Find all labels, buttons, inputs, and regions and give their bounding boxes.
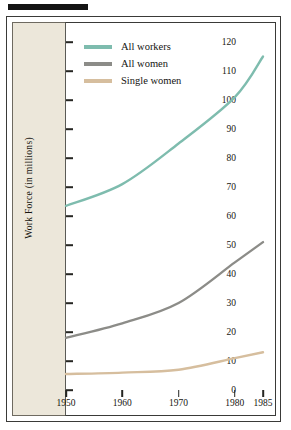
y-axis-title: Work Force (in millions): [24, 68, 34, 308]
y-axis-tick-mark: [66, 389, 73, 391]
legend-item: Single women: [84, 72, 181, 89]
y-axis-tick-label: 50: [227, 240, 237, 250]
legend-swatch-icon: [84, 79, 112, 83]
x-axis-tick-mark: [178, 390, 180, 397]
x-axis-tick-mark: [121, 390, 123, 397]
x-axis-tick-label: 1960: [113, 398, 132, 408]
y-axis-tick-mark: [66, 360, 73, 362]
legend-swatch-icon: [84, 45, 112, 49]
y-axis-tick-label: 60: [227, 211, 237, 221]
y-axis-tick-label: 120: [222, 37, 236, 47]
x-axis-tick-mark: [65, 390, 67, 397]
chart-legend: All workersAll womenSingle women: [84, 38, 181, 89]
y-axis-tick-mark: [66, 331, 73, 333]
y-axis-tick-label: 40: [227, 269, 237, 279]
y-axis-tick-mark: [66, 41, 73, 43]
y-axis-tick-mark: [66, 215, 73, 217]
legend-label: Single women: [121, 75, 181, 86]
legend-item: All workers: [84, 38, 181, 55]
y-axis-tick-mark: [66, 302, 73, 304]
legend-label: All women: [121, 58, 168, 69]
x-axis-tick-label: 1980: [225, 398, 244, 408]
y-axis-tick-label: 80: [227, 153, 237, 163]
x-axis-tick-label: 1950: [57, 398, 76, 408]
y-axis-tick-mark: [66, 99, 73, 101]
y-axis-tick-label: 110: [222, 66, 236, 76]
y-axis-tick-label: 10: [227, 356, 237, 366]
y-axis-tick-mark: [66, 244, 73, 246]
y-axis-tick-mark: [66, 128, 73, 130]
y-axis-tick-label: 90: [227, 124, 237, 134]
y-axis-tick-label: 100: [222, 95, 236, 105]
y-axis-tick-mark: [66, 273, 73, 275]
top-rule-bar: [8, 4, 88, 10]
y-axis-tick-label: 70: [227, 182, 237, 192]
y-axis-tick-label: 30: [227, 298, 237, 308]
x-axis-tick-mark: [262, 390, 264, 397]
x-axis-tick-label: 1970: [169, 398, 188, 408]
y-axis-tick-mark: [66, 70, 73, 72]
y-axis-label-band: Work Force (in millions): [12, 22, 66, 416]
y-axis-tick-mark: [66, 186, 73, 188]
chart-page: Work Force (in millions) 010203040506070…: [0, 0, 291, 430]
y-axis-tick-mark: [66, 157, 73, 159]
legend-swatch-icon: [84, 62, 112, 66]
x-axis-tick-label: 1985: [254, 398, 273, 408]
legend-label: All workers: [121, 41, 171, 52]
y-axis-tick-label: 20: [227, 327, 237, 337]
legend-item: All women: [84, 55, 181, 72]
x-axis-tick-mark: [234, 390, 236, 397]
